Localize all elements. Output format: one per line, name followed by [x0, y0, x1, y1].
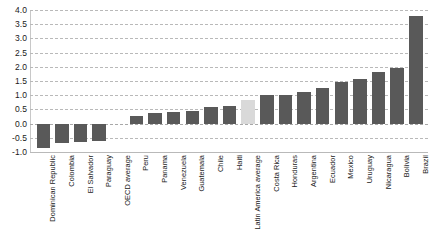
bar-slot	[313, 10, 332, 152]
bar	[55, 124, 68, 144]
bar	[316, 88, 329, 124]
bar-slot	[407, 10, 426, 152]
bar-slot	[34, 10, 53, 152]
x-axis-category-labels: Dominican RepublicColombiaEl SalvadorPar…	[30, 154, 428, 248]
bar	[390, 68, 403, 124]
x-label-slot: Peru	[127, 154, 146, 248]
y-axis-tick-label: 0.0	[15, 119, 27, 129]
bar	[409, 16, 422, 124]
x-label-slot: Costa Rica	[258, 154, 277, 248]
bar	[223, 106, 236, 123]
bar-slot	[276, 10, 295, 152]
x-label-slot: Argentina	[295, 154, 314, 248]
y-axis-tick-label: 4.0	[15, 5, 27, 15]
x-axis-tick-label: Brazil	[420, 155, 429, 174]
plot-area	[30, 10, 428, 152]
x-label-slot: Honduras	[276, 154, 295, 248]
bar-slot	[332, 10, 351, 152]
bar	[37, 124, 50, 148]
x-label-slot: Guatemala	[183, 154, 202, 248]
y-axis-tick-label: -1.0	[12, 147, 27, 157]
x-label-slot: Venezuela	[164, 154, 183, 248]
bar	[92, 124, 105, 141]
x-label-slot: Latin America average	[239, 154, 258, 248]
bar-slot	[295, 10, 314, 152]
bar-slot	[127, 10, 146, 152]
bar	[204, 107, 217, 123]
bar	[74, 124, 87, 142]
bar	[167, 112, 180, 124]
x-label-slot: Dominican Republic	[34, 154, 53, 248]
y-axis-tick-label: 3.0	[15, 33, 27, 43]
x-label-slot: Chile	[202, 154, 221, 248]
y-axis-tick-label: 1.0	[15, 90, 27, 100]
bar-slot	[258, 10, 277, 152]
bar-slot	[90, 10, 109, 152]
bar	[335, 82, 348, 124]
bar	[279, 95, 292, 124]
x-label-slot: Haiti	[220, 154, 239, 248]
x-label-slot: El Salvador	[71, 154, 90, 248]
bar	[372, 72, 385, 123]
y-axis-tick-label: 3.5	[15, 19, 27, 29]
bar	[260, 95, 273, 123]
bar-slot	[202, 10, 221, 152]
bar-slot	[53, 10, 72, 152]
x-label-slot: Bolivia	[388, 154, 407, 248]
bar-chart: 4.03.53.02.52.01.51.00.50.0-0.5-1.0 Domi…	[0, 0, 432, 250]
x-label-slot: OECD average	[109, 154, 128, 248]
bar-slot	[239, 10, 258, 152]
y-axis-tick-label: -0.5	[12, 133, 27, 143]
bar-slot	[351, 10, 370, 152]
y-axis-tick-labels: 4.03.53.02.52.01.51.00.50.0-0.5-1.0	[0, 10, 27, 152]
y-axis-tick-label: 1.5	[15, 76, 27, 86]
bar	[186, 111, 199, 124]
bar	[353, 79, 366, 123]
bar-slot	[220, 10, 239, 152]
x-label-slot: Colombia	[53, 154, 72, 248]
x-label-slot: Brazil	[407, 154, 426, 248]
x-axis-baseline	[30, 152, 428, 153]
x-label-slot: Panama	[146, 154, 165, 248]
bars-container	[30, 10, 428, 152]
bar	[130, 116, 143, 124]
bar-slot	[146, 10, 165, 152]
x-label-slot: Paraguay	[90, 154, 109, 248]
bar-slot	[109, 10, 128, 152]
x-label-slot: Uruguay	[351, 154, 370, 248]
y-axis-tick-label: 0.5	[15, 104, 27, 114]
bar	[148, 113, 161, 124]
bar-slot	[388, 10, 407, 152]
y-axis-tick-label: 2.5	[15, 48, 27, 58]
bar	[241, 100, 254, 123]
bar-slot	[183, 10, 202, 152]
bar-slot	[369, 10, 388, 152]
x-label-slot: Ecuador	[313, 154, 332, 248]
bar-slot	[164, 10, 183, 152]
bar-slot	[71, 10, 90, 152]
x-label-slot: Nicaragua	[369, 154, 388, 248]
bar	[297, 92, 310, 124]
y-axis-tick-label: 2.0	[15, 62, 27, 72]
x-label-slot: Mexico	[332, 154, 351, 248]
